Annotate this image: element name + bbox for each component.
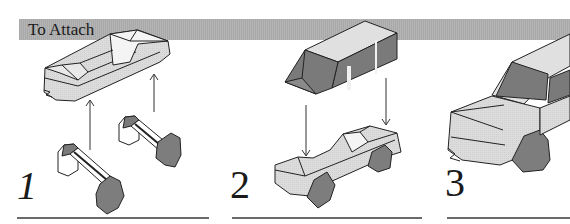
- axle-front: [58, 144, 124, 214]
- axle-rear: [119, 116, 181, 167]
- cab-body: [285, 21, 397, 94]
- car-step2: [275, 126, 401, 208]
- step-number-3: 3: [445, 163, 465, 203]
- step-number-1: 1: [17, 166, 37, 206]
- step-3-rule: [447, 217, 570, 219]
- assembly-illustration: [0, 0, 570, 224]
- step-number-2: 2: [230, 165, 250, 205]
- car-step3: [448, 34, 570, 172]
- chassis-step1: [44, 30, 170, 101]
- step-1-rule: [17, 217, 209, 219]
- step-2-rule: [232, 217, 422, 219]
